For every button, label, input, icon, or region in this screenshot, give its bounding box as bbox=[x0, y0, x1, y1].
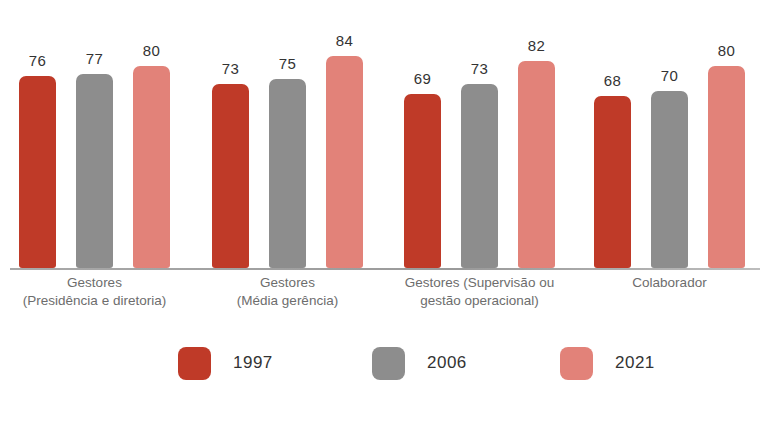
bar-value-label: 70 bbox=[651, 67, 688, 84]
legend-swatch-icon bbox=[178, 347, 211, 380]
category-label-line1: Gestores (Supervisão ou bbox=[405, 275, 554, 290]
bar-2006-4[interactable] bbox=[651, 91, 688, 268]
bar-1997-4[interactable] bbox=[594, 96, 631, 268]
grouped-bar-chart: 767780737584697382687080 Gestores(Presid… bbox=[0, 0, 772, 422]
category-label-line2: (Presidência e diretoria) bbox=[0, 292, 200, 310]
bar-2021-4[interactable] bbox=[708, 66, 745, 268]
plot-area: 767780737584697382687080 bbox=[0, 0, 772, 270]
legend-label: 2006 bbox=[427, 353, 467, 373]
baseline-axis bbox=[10, 268, 760, 270]
bar-item[interactable]: 68 bbox=[594, 96, 631, 268]
bar-value-label: 80 bbox=[708, 42, 745, 59]
legend-item-1997[interactable]: 1997 bbox=[178, 340, 273, 386]
category-label-line1: Gestores bbox=[260, 275, 315, 290]
legend-label: 2021 bbox=[615, 353, 655, 373]
legend-label: 1997 bbox=[233, 353, 273, 373]
category-label-3: Gestores (Supervisão ougestão operaciona… bbox=[375, 274, 585, 310]
legend-swatch-icon bbox=[372, 347, 405, 380]
bar-value-label: 68 bbox=[594, 72, 631, 89]
bar-item[interactable]: 80 bbox=[708, 66, 745, 268]
legend-swatch-icon bbox=[560, 347, 593, 380]
category-label-line2: (Média gerência) bbox=[183, 292, 393, 310]
category-label-line1: Colaborador bbox=[632, 275, 706, 290]
category-axis-labels: Gestores(Presidência e diretoria)Gestore… bbox=[0, 274, 772, 324]
legend-item-2021[interactable]: 2021 bbox=[560, 340, 655, 386]
category-label-line2: gestão operacional) bbox=[375, 292, 585, 310]
bar-group: 687080 bbox=[0, 0, 772, 270]
category-label-line1: Gestores bbox=[67, 275, 122, 290]
legend-item-2006[interactable]: 2006 bbox=[372, 340, 467, 386]
category-label-2: Gestores(Média gerência) bbox=[183, 274, 393, 310]
category-label-4: Colaborador bbox=[565, 274, 772, 292]
category-label-1: Gestores(Presidência e diretoria) bbox=[0, 274, 200, 310]
chart-legend: 199720062021 bbox=[0, 340, 772, 400]
bar-item[interactable]: 70 bbox=[651, 91, 688, 268]
